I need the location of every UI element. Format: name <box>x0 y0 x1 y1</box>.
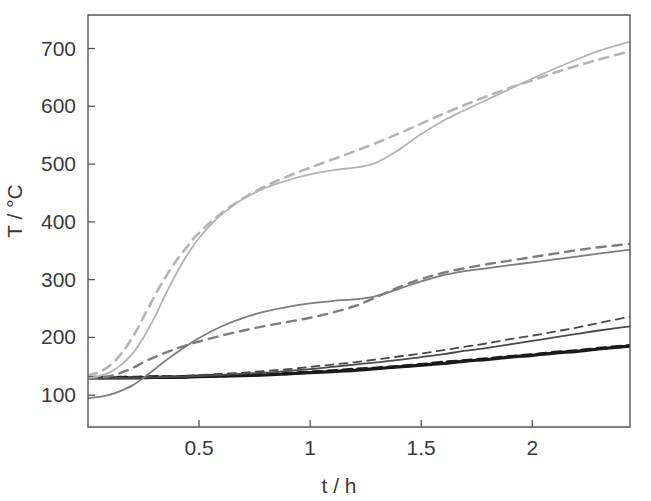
x-tick-label: 1.5 <box>407 436 436 459</box>
y-axis-title: T / °C <box>3 184 26 238</box>
y-tick-label: 400 <box>41 210 76 233</box>
y-tick-label: 300 <box>41 268 76 291</box>
x-axis-title: t / h <box>321 474 356 497</box>
chart-figure: 1002003004005006007000.511.52t / hT / °C <box>0 0 651 501</box>
axis-labels-layer: 1002003004005006007000.511.52t / hT / °C <box>3 37 538 497</box>
x-tick-label: 1 <box>304 436 316 459</box>
series-line <box>88 42 630 378</box>
x-tick-label: 2 <box>526 436 538 459</box>
y-tick-label: 700 <box>41 37 76 60</box>
y-tick-label: 100 <box>41 383 76 406</box>
y-tick-label: 600 <box>41 94 76 117</box>
axes-layer <box>88 15 630 427</box>
series-line <box>88 51 630 375</box>
series-layer <box>88 42 630 399</box>
y-tick-label: 200 <box>41 325 76 348</box>
line-chart: 1002003004005006007000.511.52t / hT / °C <box>0 0 651 501</box>
plot-border <box>88 15 630 427</box>
x-tick-label: 0.5 <box>184 436 213 459</box>
y-tick-label: 500 <box>41 152 76 175</box>
